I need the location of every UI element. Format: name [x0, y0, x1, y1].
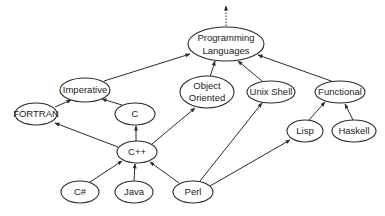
- edge-haskell-to-functional: [345, 104, 353, 120]
- language-hierarchy-diagram: Programming Languages Imperative Object …: [0, 0, 385, 216]
- node-label: Unix Shell: [250, 86, 293, 97]
- edge-csharp-to-cpp: [90, 161, 122, 182]
- edge-lisp-to-functional: [309, 102, 325, 120]
- node-label: Imperative: [63, 84, 107, 95]
- node-functional: Functional: [315, 81, 365, 103]
- node-cpp: C++: [117, 141, 157, 163]
- node-label: Languages: [202, 45, 249, 56]
- edge-cpp-to-oo: [152, 108, 195, 144]
- edge-perl-to-unix: [200, 103, 262, 181]
- node-label: Perl: [185, 186, 202, 197]
- edge-java-to-cpp: [134, 164, 135, 181]
- node-fortran: FORTRAN: [13, 103, 59, 125]
- node-c: C: [115, 103, 155, 125]
- node-programming-languages: Programming Languages: [188, 27, 264, 61]
- edge-perl-to-cpp: [150, 162, 179, 183]
- node-imperative: Imperative: [60, 78, 110, 102]
- node-label: C: [132, 108, 139, 119]
- node-perl: Perl: [173, 181, 213, 203]
- edge-unix-to-pl: [238, 61, 262, 81]
- node-label: Programming: [197, 32, 254, 43]
- node-csharp: C#: [61, 181, 99, 203]
- node-object-oriented: Object Oriented: [180, 76, 234, 108]
- node-unix-shell: Unix Shell: [247, 81, 295, 103]
- edge-cpp-to-fortran: [55, 123, 118, 147]
- edge-fortran-to-imperative: [55, 100, 71, 107]
- edge-perl-to-lisp: [210, 140, 290, 186]
- edge-oo-to-pl: [210, 61, 215, 77]
- edge-functional-to-pl: [258, 55, 334, 82]
- node-label: C++: [128, 146, 146, 157]
- node-label: Object: [193, 80, 221, 91]
- node-java: Java: [115, 181, 153, 203]
- node-label: Oriented: [189, 92, 225, 103]
- node-label: Haskell: [338, 125, 369, 136]
- edge-imperative-to-pl: [104, 54, 190, 81]
- node-label: C#: [74, 186, 87, 197]
- node-label: Java: [124, 186, 145, 197]
- edge-c-to-imperative: [102, 99, 122, 105]
- node-label: Functional: [318, 86, 362, 97]
- node-label: Lisp: [296, 125, 313, 136]
- node-label: FORTRAN: [13, 108, 59, 119]
- node-lisp: Lisp: [287, 120, 323, 142]
- node-haskell: Haskell: [332, 120, 376, 142]
